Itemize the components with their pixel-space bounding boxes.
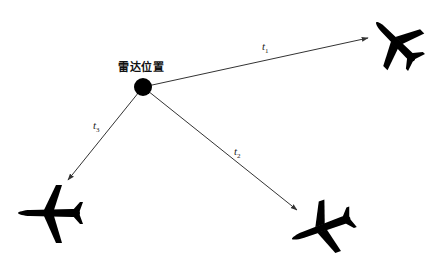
path-label-subscript: 2 [237,152,241,160]
path-arrow-t1 [143,38,368,87]
path-label-subscript: 3 [96,126,100,134]
radar-position-label: 雷达位置 [118,58,164,74]
path-label-subscript: 1 [265,47,269,55]
aircraft-icon [18,185,83,243]
path-arrow-t2 [143,87,297,210]
path-label-t2: t2 [234,145,241,160]
path-arrow-t3 [68,87,143,180]
path-label-t3: t3 [93,119,100,134]
aircraft-icon [283,192,363,265]
radar-diagram [0,0,436,272]
aircraft-icon [358,4,435,81]
radar-position-dot [134,78,152,96]
path-label-t1: t1 [262,40,269,55]
